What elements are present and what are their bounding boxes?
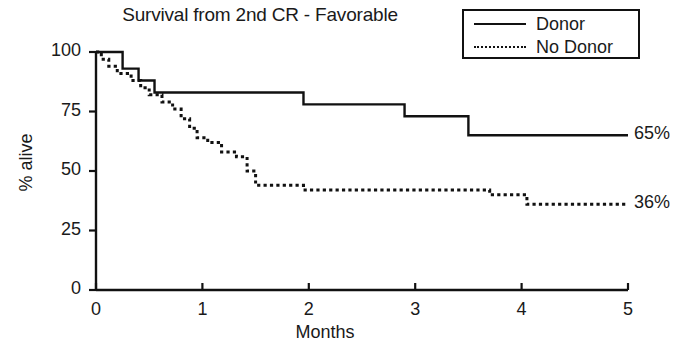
- legend-swatch-solid-icon: [474, 18, 526, 30]
- endpoint-label-no-donor: 36%: [634, 192, 670, 213]
- legend-label-donor: Donor: [536, 14, 585, 35]
- endpoint-label-donor: 65%: [634, 123, 670, 144]
- x-axis-title: Months: [265, 322, 385, 343]
- survival-chart-figure: Survival from 2nd CR - Favorable Donor N…: [0, 0, 683, 356]
- y-axis-tick-label: 100: [35, 40, 81, 61]
- y-axis-tick-label: 0: [35, 278, 81, 299]
- x-axis-tick-label: 0: [81, 299, 111, 320]
- axes-group: [89, 51, 628, 290]
- legend-swatch-dotted-icon: [474, 41, 526, 53]
- legend-label-no-donor: No Donor: [536, 37, 613, 58]
- chart-legend: Donor No Donor: [462, 9, 640, 59]
- x-axis-tick-label: 4: [507, 299, 537, 320]
- y-axis-tick-label: 50: [35, 159, 81, 180]
- x-axis-tick-label: 2: [294, 299, 324, 320]
- legend-item-donor: Donor: [464, 12, 638, 36]
- y-axis-title: % alive: [16, 115, 37, 211]
- x-axis-tick-label: 5: [613, 299, 643, 320]
- data-series-group: [96, 52, 628, 204]
- chart-title: Survival from 2nd CR - Favorable: [70, 4, 450, 26]
- series-line-no-donor: [96, 52, 628, 204]
- x-axis-tick-label: 3: [400, 299, 430, 320]
- y-axis-tick-label: 75: [35, 100, 81, 121]
- y-axis-tick-label: 25: [35, 219, 81, 240]
- x-axis-tick-label: 1: [187, 299, 217, 320]
- legend-item-no-donor: No Donor: [464, 35, 638, 59]
- series-line-donor: [96, 52, 628, 135]
